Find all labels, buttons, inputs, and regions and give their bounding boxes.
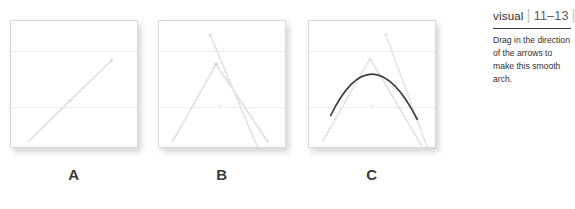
right-descending-guide-line [216, 64, 267, 141]
panel-label-c: C [308, 166, 436, 183]
left-base-handle-dot [171, 140, 174, 143]
apex-handle-dot [214, 63, 218, 67]
left-ascending-guide-line [173, 64, 216, 141]
drag-start-handle-dot [209, 33, 212, 36]
side-note-caption: Drag in the direction of the arrows to m… [493, 34, 573, 86]
drag-start-handle-dot [384, 33, 387, 36]
mid-handle-dot [69, 99, 72, 102]
panel-label-b: B [158, 166, 286, 183]
right-descending-guide-line [370, 58, 421, 145]
panel-b-canvas [159, 21, 285, 147]
side-note-rule [493, 28, 571, 29]
page-range: 11–13 [534, 9, 569, 23]
side-note: visual | 11–13 | Drag in the direction o… [493, 6, 573, 86]
center-reference-dot [219, 104, 222, 107]
illustration-panel-c [308, 20, 436, 148]
illustration-panel-a [10, 20, 138, 148]
left-ascending-guide-line [323, 58, 370, 141]
instructional-figure: A B C visual | 11–13 | Drag in the direc… [0, 0, 575, 209]
panel-c-canvas [309, 21, 435, 147]
side-note-title: visual [493, 10, 524, 22]
end-handle-dot [110, 59, 113, 62]
start-handle-dot [27, 140, 30, 143]
smooth-arch-curve [331, 74, 418, 119]
panel-label-a: A [10, 166, 138, 183]
center-reference-dot [371, 104, 374, 107]
illustration-panel-b [158, 20, 286, 148]
divider-glyph-right: | [572, 6, 575, 23]
divider-glyph-left: | [527, 6, 531, 23]
right-base-handle-dot [266, 140, 269, 143]
side-note-header: visual | 11–13 | [493, 6, 573, 23]
panel-a-canvas [11, 21, 137, 147]
